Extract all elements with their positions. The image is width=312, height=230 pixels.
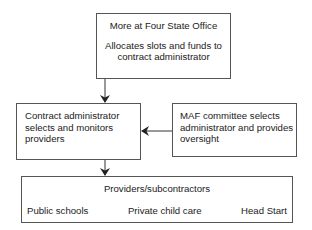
state-office-title: More at Four State Office (97, 20, 230, 32)
state-office-description: Allocates slots and funds to contract ad… (97, 40, 230, 63)
provider-public-schools: Public schools (27, 205, 88, 217)
providers-title: Providers/subcontractors (22, 183, 292, 195)
provider-head-start: Head Start (241, 205, 287, 217)
providers-box: Providers/subcontractors Public schools … (21, 176, 293, 223)
provider-private-child-care: Private child care (128, 205, 202, 217)
maf-committee-text: MAF committee selects administrator and … (180, 110, 293, 144)
contract-administrator-box: Contract administrator selects and monit… (16, 103, 141, 160)
contract-administrator-text: Contract administrator selects and monit… (25, 110, 119, 144)
maf-committee-box: MAF committee selects administrator and … (172, 103, 297, 157)
providers-list: Public schools Private child care Head S… (27, 205, 287, 217)
state-office-box: More at Four State Office Allocates slot… (96, 13, 231, 79)
